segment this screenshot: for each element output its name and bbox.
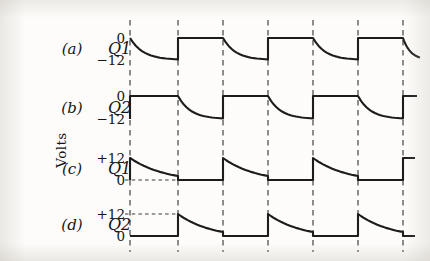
trace-curves: [130, 38, 420, 236]
trace-d: [130, 214, 415, 236]
trace-a: [130, 38, 420, 59]
trace-c: [130, 158, 415, 180]
waveform-plot: (a)Q10−12(b)Q20−12(c)Q1+120(d)Q2+120Volt…: [0, 0, 430, 261]
trace-index-label-0: (a): [62, 40, 83, 58]
waveform-figure: (a)Q10−12(b)Q20−12(c)Q1+120(d)Q2+120Volt…: [0, 0, 430, 261]
tick-high-3: +12: [97, 206, 126, 222]
trace-index-label-3: (d): [61, 216, 82, 234]
reference-lines: [125, 180, 178, 214]
y-axis-label: Volts: [53, 132, 69, 168]
tick-low-0: −12: [97, 52, 126, 68]
tick-high-2: +12: [97, 150, 126, 166]
plot-labels: (a)Q10−12(b)Q20−12(c)Q1+120(d)Q2+120Volt…: [53, 30, 131, 244]
trace-b: [130, 96, 417, 119]
trace-index-label-1: (b): [61, 99, 82, 117]
tick-low-1: −12: [97, 111, 126, 127]
tick-high-1: 0: [116, 88, 125, 104]
tick-high-0: 0: [116, 30, 125, 46]
tick-low-2: 0: [116, 172, 125, 188]
tick-low-3: 0: [116, 228, 125, 244]
